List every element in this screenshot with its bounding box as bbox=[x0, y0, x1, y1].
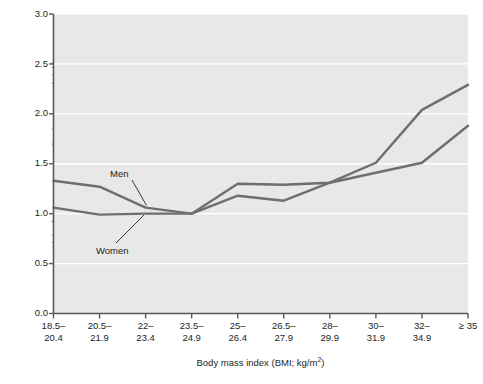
x-axis-title-prefix: Body mass index (BMI; kg/m bbox=[197, 357, 318, 368]
series-label-women: Women bbox=[96, 245, 129, 256]
chart-container: Risk of premature mortality (1 = normal … bbox=[0, 0, 483, 384]
x-tick-label-line: ≥ 35 bbox=[440, 320, 483, 332]
x-axis-title: Body mass index (BMI; kg/m2) bbox=[53, 356, 468, 368]
x-tick-label: ≥ 35 bbox=[440, 320, 483, 332]
x-tick-label-line: 34.9 bbox=[394, 332, 450, 344]
x-axis-title-suffix: ) bbox=[321, 357, 324, 368]
series-label-men: Men bbox=[110, 168, 128, 179]
